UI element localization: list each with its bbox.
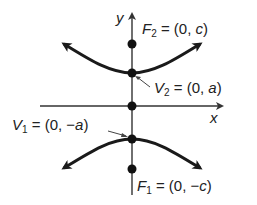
lower-hyperbola-branch-right: [132, 139, 200, 168]
vertex-v2-point: [128, 69, 137, 78]
focus-f2-label: F2 = (0, c): [142, 21, 208, 39]
origin-point: [128, 102, 137, 111]
hyperbola-diagram: y x F2 = (0, c) V2 = (0, a) V1 = (0, −a)…: [0, 0, 257, 205]
lower-hyperbola-branch-left: [64, 139, 132, 168]
focus-f1-label: F1 = (0, −c): [137, 178, 212, 196]
focus-f1-point: [128, 165, 137, 174]
diagram-graphics: [0, 0, 257, 205]
upper-hyperbola-branch-left: [64, 44, 132, 73]
focus-f2-point: [128, 40, 137, 49]
y-axis-label: y: [116, 10, 124, 25]
upper-hyperbola-branch-right: [132, 44, 200, 73]
vertex-v2-label: V2 = (0, a): [154, 80, 222, 98]
x-axis-label: x: [210, 110, 218, 125]
vertex-v1-label: V1 = (0, −a): [12, 117, 88, 135]
vertex-v1-point: [128, 135, 137, 144]
v1-leader-arrowhead: [121, 133, 128, 137]
